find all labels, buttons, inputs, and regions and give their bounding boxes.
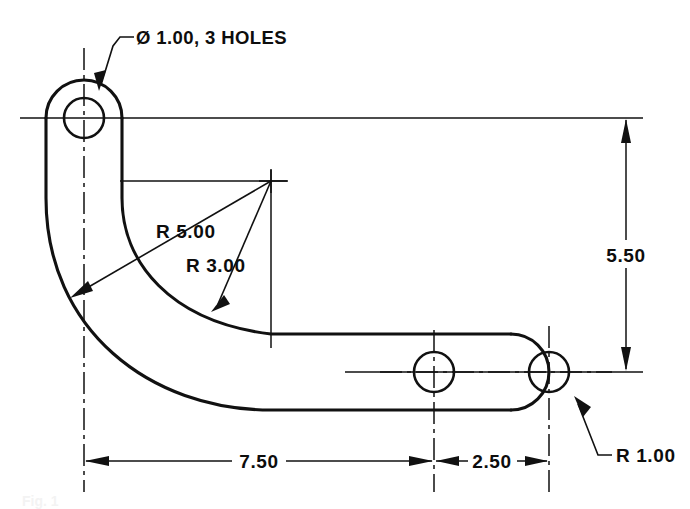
dim-7-50-label: 7.50: [239, 451, 278, 472]
figure-caption: Fig. 1: [22, 493, 59, 509]
drawing-canvas: Ø 1.00, 3 HOLES R 5.00 R 3.00 R 1.00 5.5…: [0, 0, 690, 509]
dim-5-50-label: 5.50: [606, 245, 645, 266]
hole-callout-leader-line: [101, 37, 134, 85]
dim-7-50-arrow-right: [409, 456, 433, 466]
dim-5-50-arrow-top: [621, 119, 631, 143]
r3-leader-line: [218, 181, 271, 304]
dim-2-50-arrow-left: [436, 456, 459, 466]
dim-2-50-arrow-right: [525, 456, 548, 466]
center-lines: [20, 48, 643, 492]
dim-7-50-arrow-left: [85, 456, 109, 466]
r1-leader: [574, 396, 612, 455]
r1-label: R 1.00: [616, 445, 676, 466]
r5-arrowhead: [70, 281, 93, 298]
holes: [64, 98, 569, 392]
figure-caption-group: Fig. 1: [22, 493, 59, 509]
r3-leader: [211, 181, 271, 312]
hole-callout-text: Ø 1.00, 3 HOLES: [136, 27, 287, 48]
outline-outer-contour: [46, 118, 511, 410]
engineering-drawing: Ø 1.00, 3 HOLES R 5.00 R 3.00 R 1.00 5.5…: [0, 0, 690, 509]
r1-arrowhead: [574, 396, 591, 417]
radius-center-mark: [259, 169, 287, 193]
dim-5-50-arrow-bottom: [621, 347, 631, 371]
dim-2-50-label: 2.50: [472, 451, 511, 472]
r5-label: R 5.00: [156, 221, 216, 242]
hole-callout-leader: [94, 37, 134, 91]
r3-label: R 3.00: [186, 255, 246, 276]
part-outline: [46, 80, 549, 410]
